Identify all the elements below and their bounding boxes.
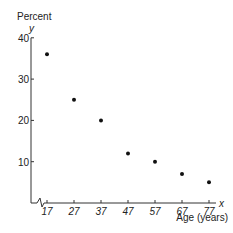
data-point [126, 151, 130, 155]
y-tick-label: 40 [18, 33, 30, 44]
y-axis-title: Percent [17, 11, 52, 22]
data-point [153, 160, 157, 164]
x-tick-label: 57 [149, 206, 161, 217]
data-point [45, 52, 49, 56]
x-tick-label: 37 [95, 206, 107, 217]
y-axis-variable: y [28, 23, 35, 34]
y-tick-label: 10 [18, 157, 30, 168]
data-point [72, 98, 76, 102]
y-tick-label: 30 [18, 74, 30, 85]
x-tick-label: 17 [41, 206, 53, 217]
y-axis: 10203040 [18, 33, 34, 203]
x-tick-label: 47 [122, 206, 134, 217]
x-tick-label: 27 [67, 206, 80, 217]
x-axis-title: Age (years) [176, 212, 228, 223]
data-point [99, 118, 103, 122]
data-points [45, 52, 211, 184]
scatter-chart: Percent y 10203040 17273747576777 x Age … [0, 0, 233, 233]
x-axis-variable: x [218, 198, 225, 209]
data-point [207, 180, 211, 184]
y-tick-label: 20 [18, 115, 30, 126]
data-point [180, 172, 184, 176]
